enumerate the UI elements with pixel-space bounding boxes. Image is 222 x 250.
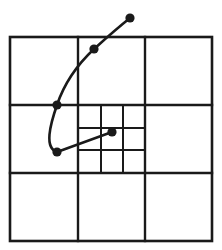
refined-grid-lines — [78, 105, 145, 173]
point-4 — [52, 147, 61, 156]
point-5 — [107, 127, 116, 136]
point-1 — [125, 13, 134, 22]
point-3 — [52, 100, 61, 109]
point-2 — [89, 44, 98, 53]
grid-diagram — [0, 0, 222, 250]
outer-border — [10, 37, 212, 241]
outer-square — [10, 37, 212, 241]
major-grid-lines — [10, 37, 212, 241]
